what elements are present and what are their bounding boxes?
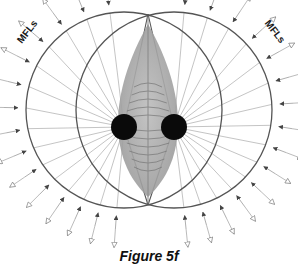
inward-arrow — [17, 56, 29, 62]
magnetic-field-lines-illustration — [0, 0, 298, 275]
outward-arrow — [286, 153, 298, 159]
inward-arrow — [233, 10, 241, 22]
inward-arrow — [53, 13, 61, 24]
outward-arrow — [226, 218, 234, 234]
outward-arrow — [43, 0, 54, 13]
outward-arrow — [276, 174, 291, 184]
outward-arrow — [46, 209, 56, 224]
inward-arrow — [56, 197, 64, 209]
inward-arrow — [220, 205, 226, 218]
field-line — [87, 19, 124, 127]
outward-arrow — [0, 156, 13, 163]
outward-arrow — [289, 72, 298, 77]
outward-arrow — [207, 225, 212, 242]
inward-arrow — [279, 127, 293, 129]
inward-arrow — [115, 216, 116, 230]
outward-arrow — [10, 177, 25, 187]
inward-arrow — [210, 0, 215, 10]
inward-arrow — [273, 148, 286, 153]
central-field-lens — [118, 14, 178, 205]
inward-arrow — [95, 213, 98, 227]
inward-arrow — [185, 0, 186, 5]
inward-arrow — [185, 215, 186, 229]
outward-arrow — [1, 48, 17, 56]
inward-arrow — [280, 103, 294, 104]
outward-arrow — [262, 192, 275, 204]
outward-arrow — [114, 230, 115, 248]
outward-arrow — [241, 0, 251, 10]
inward-arrow — [39, 185, 49, 195]
right-pole-dot — [161, 114, 187, 140]
inward-arrow — [252, 29, 262, 38]
outward-arrow — [26, 195, 39, 208]
mfl-diagram: MFLs MFLs Figure 5f — [0, 0, 298, 275]
inward-arrow — [7, 81, 21, 84]
field-line — [174, 29, 229, 127]
outward-arrow — [67, 219, 74, 235]
field-line — [28, 127, 124, 129]
inward-arrow — [13, 151, 26, 156]
inward-arrow — [79, 0, 84, 12]
field-line — [174, 44, 246, 127]
outward-arrow — [186, 229, 188, 247]
inward-arrow — [237, 196, 245, 207]
outward-arrow — [0, 133, 6, 136]
field-line — [174, 125, 271, 127]
outward-arrow — [0, 77, 7, 81]
inward-arrow — [251, 183, 261, 193]
outward-arrow — [245, 207, 256, 222]
inward-arrow — [32, 33, 43, 42]
outward-arrow — [279, 43, 295, 52]
inward-arrow — [25, 169, 37, 177]
inward-arrow — [6, 130, 20, 133]
inward-arrow — [264, 166, 276, 173]
field-line — [66, 31, 124, 127]
inward-arrow — [107, 0, 109, 5]
inward-arrow — [276, 77, 289, 81]
inward-arrow — [75, 207, 81, 220]
left-pole-dot — [111, 114, 137, 140]
inward-arrow — [203, 212, 207, 225]
field-line — [37, 66, 124, 127]
field-line — [174, 127, 245, 177]
inward-arrow — [267, 52, 279, 59]
outward-arrow — [293, 129, 298, 132]
outward-arrow — [294, 102, 298, 103]
figure-caption: Figure 5f — [0, 248, 298, 264]
outward-arrow — [90, 226, 94, 243]
